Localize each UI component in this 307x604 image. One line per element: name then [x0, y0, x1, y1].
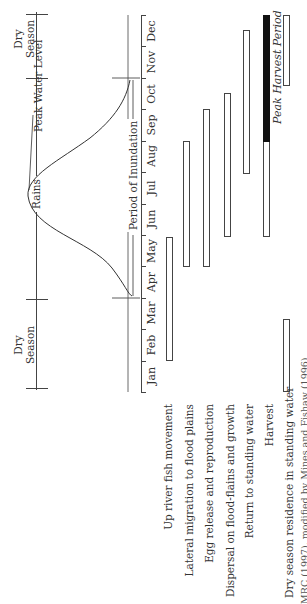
label-lateral-migration: Lateral migration to flood plains — [183, 404, 195, 598]
month-label-apr: Apr — [146, 270, 158, 294]
bar-egg-release — [203, 109, 210, 267]
month-tick — [141, 78, 146, 79]
bar-up-river-fish-movement — [166, 237, 173, 361]
month-tick — [141, 361, 146, 362]
month-label-jul: Jul — [146, 176, 158, 200]
peak-harvest-label: Peak Harvest Period — [272, 10, 284, 124]
month-tick — [141, 298, 146, 299]
month-label-oct: Oct — [146, 82, 158, 106]
bar-lateral-migration — [183, 141, 190, 267]
bar-dry-season-residence-upper — [283, 15, 290, 86]
label-dispersal: Dispersal on flood-flains and growth — [224, 404, 236, 598]
month-tick — [141, 392, 146, 393]
label-egg-release: Egg release and reproduction — [203, 404, 215, 598]
month-tick — [141, 172, 146, 173]
source-caption: MRC (1997), modified by Mines and Fishaw… — [299, 358, 307, 604]
bar-return-to-standing-water — [243, 30, 250, 174]
month-label-nov: Nov — [146, 50, 158, 74]
month-tick — [141, 329, 146, 330]
month-tick — [141, 46, 146, 47]
month-label-mar: Mar — [146, 301, 158, 325]
bar-dry-season-residence-lower — [283, 319, 290, 392]
month-tick — [141, 141, 146, 142]
label-return: Return to standing water — [243, 404, 255, 598]
month-tick — [141, 109, 146, 110]
month-label-may: May — [146, 239, 158, 263]
bar-peak-harvest — [263, 15, 270, 142]
month-label-feb: Feb — [146, 333, 158, 357]
month-label-jan: Jan — [146, 364, 158, 388]
month-label-aug: Aug — [146, 144, 158, 168]
bar-dispersal — [224, 93, 231, 237]
period-of-inundation-label: Period of Inundation — [127, 119, 139, 232]
month-tick — [141, 235, 146, 236]
month-tick — [141, 204, 146, 205]
label-up-river: Up river fish movement — [162, 404, 174, 598]
month-label-dec: Dec — [146, 19, 158, 43]
month-label-sep: Sep — [146, 113, 158, 137]
label-harvest: Harvest — [263, 404, 275, 598]
month-tick — [141, 15, 146, 16]
month-label-jun: Jun — [146, 207, 158, 231]
peak-water-level-label: Peak Water Level — [32, 40, 44, 132]
month-tick — [141, 266, 146, 267]
label-dry-season-residence: Dry season residence in standing water — [283, 404, 295, 598]
